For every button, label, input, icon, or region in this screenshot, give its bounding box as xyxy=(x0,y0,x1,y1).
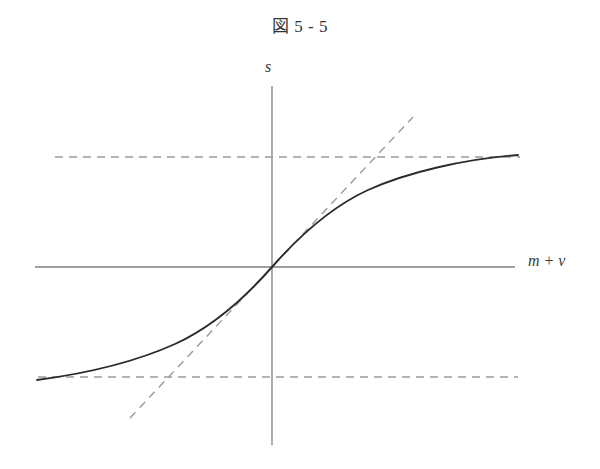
x-axis-label: m + v xyxy=(528,252,565,270)
plot-canvas xyxy=(0,0,600,469)
figure-root: 図 5 - 5 s m + v xyxy=(0,0,600,469)
y-axis-label: s xyxy=(265,58,271,76)
